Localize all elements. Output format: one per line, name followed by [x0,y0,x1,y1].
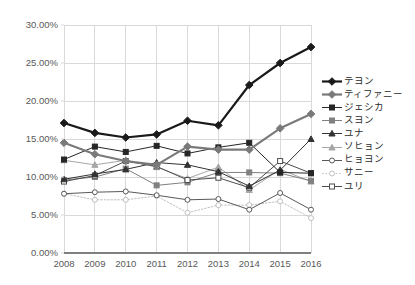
legend-marker-icon [321,126,343,139]
legend-item-label: ユリ [344,181,364,191]
legend-item-label: ユナ [344,128,364,138]
line-chart: 0.00%5.00%10.00%15.00%20.00%25.00%30.00%… [0,0,415,285]
legend-marker-icon [321,74,343,87]
legend-marker-icon [321,113,343,126]
legend-item-label: ソヒョン [344,141,384,151]
y-tick-label: 0.00% [0,247,58,258]
y-tick-label: 15.00% [0,133,58,144]
legend-item-8[interactable]: ユリ [321,179,415,192]
legend-marker-icon [321,87,343,100]
legend-item-label: スヨン [344,115,374,125]
legend-item-6[interactable]: ヒョヨン [321,153,415,166]
legend-marker-icon [321,100,343,113]
legend-item-label: ヒョヨン [344,154,384,164]
legend-item-3[interactable]: スヨン [321,113,415,126]
legend-item-7[interactable]: サニー [321,166,415,179]
legend-item-label: テヨン [344,76,374,86]
legend-item-5[interactable]: ソヒョン [321,139,415,152]
legend-marker-icon [321,179,343,192]
y-tick-label: 10.00% [0,171,58,182]
x-tick-label: 2016 [291,258,331,269]
chart-legend: テヨンティファニージェシカスヨンユナソヒョンヒョヨンサニーユリ [321,74,415,192]
legend-item-0[interactable]: テヨン [321,74,415,87]
legend-marker-icon [321,153,343,166]
legend-marker-icon [321,140,343,153]
y-tick-label: 20.00% [0,95,58,106]
legend-marker-icon [321,166,343,179]
legend-item-2[interactable]: ジェシカ [321,100,415,113]
legend-item-1[interactable]: ティファニー [321,87,415,100]
y-tick-label: 5.00% [0,209,58,220]
legend-item-label: ティファニー [344,89,403,99]
legend-item-label: ジェシカ [344,102,384,112]
legend-item-4[interactable]: ユナ [321,126,415,139]
y-tick-label: 25.00% [0,57,58,68]
y-tick-label: 30.00% [0,19,58,30]
legend-item-label: サニー [344,167,374,177]
